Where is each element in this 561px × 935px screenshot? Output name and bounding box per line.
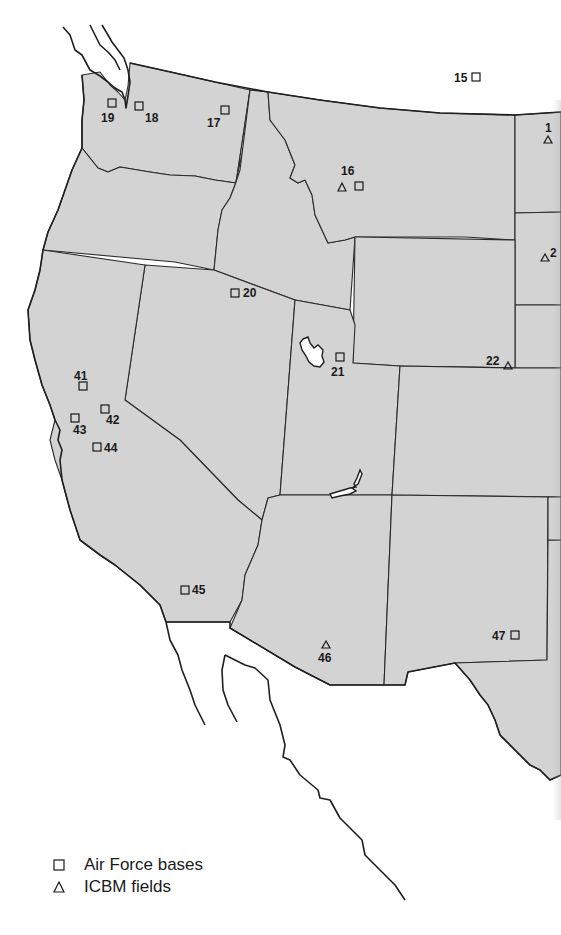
baja-gulf-coast [222,655,237,722]
marker-label: 43 [73,424,86,436]
map-legend: Air Force bases ICBM fields [52,854,203,898]
state-new-mexico [384,495,548,685]
state-wyoming [353,237,515,368]
square-icon [52,858,66,872]
marker-label: 1 [545,122,552,134]
marker-label: 42 [106,414,119,426]
marker-label: 18 [145,112,158,124]
triangle-icon [52,880,66,894]
marker-label: 22 [486,355,499,367]
marker-label: 20 [243,287,256,299]
marker-label: 15 [454,72,467,84]
air-force-base-marker-15[interactable] [472,73,480,81]
marker-label: 46 [318,652,331,664]
baja-west-coast [166,622,205,725]
marker-label: 17 [207,117,220,129]
sonora-coast [225,655,405,900]
page-edge-shadow [553,100,561,820]
marker-label: 45 [192,584,205,596]
legend-item-icbm-fields: ICBM fields [52,876,203,898]
marker-label: 16 [341,165,354,177]
state-colorado [392,366,561,497]
legend-label: Air Force bases [84,855,203,875]
legend-item-air-force-bases: Air Force bases [52,854,203,876]
marker-label: 19 [101,112,114,124]
marker-label: 47 [492,630,505,642]
western-us-map [0,0,561,935]
marker-label: 21 [331,366,344,378]
marker-label: 41 [74,370,87,382]
legend-label: ICBM fields [84,877,171,897]
marker-label: 44 [104,442,117,454]
